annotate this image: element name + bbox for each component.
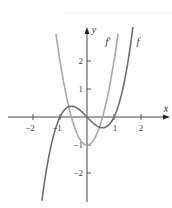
y-tick-label: 1 <box>79 84 84 94</box>
f-label: f <box>136 35 141 47</box>
x-tick-label: 2 <box>139 123 144 133</box>
function-graph: −2 −1 1 2 2 1 −1 −2 x y f′ f <box>0 0 172 208</box>
f-prime-label: f′ <box>105 35 111 47</box>
y-axis-arrow-icon <box>85 27 90 34</box>
y-tick-label: −2 <box>73 168 83 178</box>
x-tick-label: 1 <box>113 123 118 133</box>
y-tick-label: 2 <box>79 56 84 66</box>
y-axis-label: y <box>91 24 97 35</box>
x-tick-label: −1 <box>52 123 62 133</box>
x-axis-arrow-icon <box>163 115 170 120</box>
x-tick-label: −2 <box>25 123 35 133</box>
x-axis-label: x <box>163 103 169 114</box>
y-tick-label: −1 <box>73 140 83 150</box>
